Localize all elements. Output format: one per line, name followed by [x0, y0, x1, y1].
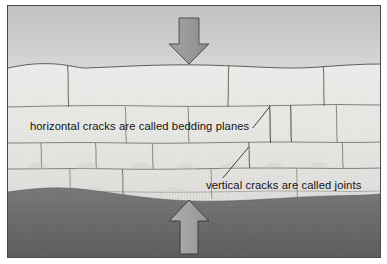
joints-label: vertical cracks are called joints [206, 179, 362, 191]
geology-diagram-svg: horizontal cracks are called bedding pla… [8, 6, 380, 257]
rock-layers-scene: horizontal cracks are called bedding pla… [8, 6, 380, 257]
bedding-planes-label: horizontal cracks are called bedding pla… [30, 120, 250, 132]
figure-container: horizontal cracks are called bedding pla… [0, 0, 387, 264]
figure-frame: horizontal cracks are called bedding pla… [7, 5, 381, 258]
